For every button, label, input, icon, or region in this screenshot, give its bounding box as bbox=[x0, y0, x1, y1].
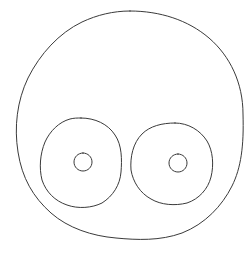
face-sketch-svg bbox=[0, 0, 250, 254]
drawing-canvas bbox=[0, 0, 250, 254]
canvas-background bbox=[0, 0, 250, 254]
